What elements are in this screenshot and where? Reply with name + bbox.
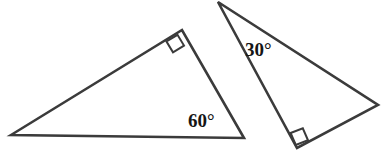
angle-label-30: 30° (245, 39, 272, 60)
angle-label-60: 60° (188, 110, 215, 131)
right-triangle-outline (218, 2, 378, 148)
right-triangle: 30° (218, 2, 378, 148)
figure-canvas: 60° 30° (0, 0, 386, 151)
geometry-figure: 60° 30° (0, 0, 386, 151)
left-triangle: 60° (11, 30, 244, 138)
